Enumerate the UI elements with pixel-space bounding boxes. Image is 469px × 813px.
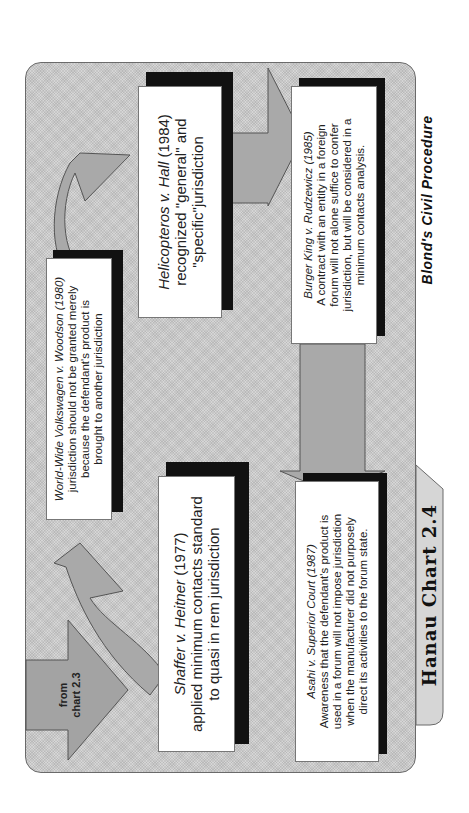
case-summary-line: brought to another jurisdiction	[92, 313, 105, 465]
case-summary-line: Awareness that the defendant's product i…	[318, 515, 331, 729]
case-summary-line: direct its activities to the forum state…	[357, 529, 370, 715]
case-summary-line: minimum contacts analysis.	[354, 145, 367, 286]
case-summary-line: forum will not alone suffice to confer	[328, 123, 341, 306]
case-summary-line: jurisdiction should not be granted merel…	[66, 286, 79, 492]
footer-credit: Blond's Civil Procedure	[419, 90, 439, 310]
case-summary-line: because the defendant's product is	[79, 300, 92, 478]
case-summary-line: used in a forum will not impose jurisdic…	[331, 514, 344, 729]
case-summary-line: A contract with an entity in a foreign	[315, 124, 328, 306]
chart-canvas: Hanau Chart 2.4 from chart 2.3 Shaffer v…	[0, 0, 469, 813]
case-name: Burger King v. Rudzewicz (1985)	[302, 131, 315, 298]
case-year: (1977)	[171, 532, 188, 580]
from-line1: from	[57, 683, 70, 707]
from-chart-label: from chart 2.3	[40, 660, 100, 730]
case-name: World-Wide Volkswagen v. Woodson (1980)	[53, 277, 66, 501]
case-summary-line: applied minimum contacts standard	[188, 496, 205, 732]
from-line2: chart 2.3	[70, 672, 83, 717]
straight-arrow-2	[280, 344, 385, 493]
case-summary-line: when the manufacturer did not purposely	[344, 517, 357, 725]
case-name: Asahi v. Superior Court (1987)	[305, 544, 318, 698]
case-year: (1984)	[155, 114, 172, 162]
case-summary-line: jurisdiction, but will be considered in …	[341, 118, 354, 311]
case-summary-line: recognized "general" and	[172, 118, 189, 285]
case-summary-line: to quasi in rem jurisdiction	[205, 527, 222, 700]
case-name: Shaffer v. Heitner	[171, 580, 188, 696]
case-name: Helicopteros v. Hall	[155, 162, 172, 290]
case-summary-line: "specific"jurisdiction	[189, 136, 206, 268]
